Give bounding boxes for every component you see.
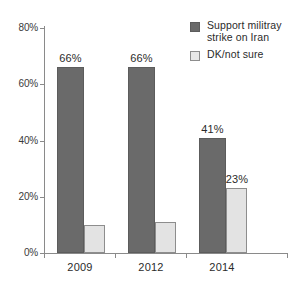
bar-label-2014-dk: 23% [219, 173, 255, 185]
legend-entry-support: Support militray strike on Iran [190, 20, 294, 43]
bar-label-2009-support: 66% [50, 52, 91, 64]
legend-entry-dk: DK/not sure [190, 49, 294, 61]
y-axis-line [44, 26, 45, 254]
y-tick-40 [40, 141, 45, 142]
bar-2009-support [57, 67, 84, 253]
y-tick-label-80: 80% [0, 23, 38, 33]
y-tick-60 [40, 84, 45, 85]
dark-swatch-icon [190, 22, 200, 32]
x-tick-sep-2 [186, 253, 187, 258]
y-tick-label-60: 60% [0, 79, 38, 89]
y-tick-label-20: 20% [0, 192, 38, 202]
x-tick-label-2014: 2014 [192, 261, 252, 273]
x-axis-line [44, 253, 288, 254]
chart-legend: Support militray strike on Iran DK/not s… [190, 20, 294, 67]
bar-label-2012-support: 66% [121, 52, 162, 64]
bar-2012-support [128, 67, 155, 253]
light-swatch-icon [190, 51, 200, 61]
bar-chart: 80% 60% 40% 20% 0% 2009 2012 2014 66% 66… [0, 0, 296, 286]
bar-2014-dk [226, 188, 247, 253]
bar-2012-dk [155, 222, 176, 253]
y-tick-label-40: 40% [0, 136, 38, 146]
x-tick-label-2009: 2009 [50, 261, 110, 273]
x-tick-sep-1 [115, 253, 116, 258]
y-tick-20 [40, 197, 45, 198]
x-tick-start [44, 253, 45, 258]
legend-label-support: Support militray strike on Iran [207, 20, 294, 43]
x-tick-end [287, 253, 288, 258]
bar-label-2014-support: 41% [192, 123, 233, 135]
legend-label-dk: DK/not sure [207, 49, 264, 61]
bar-2009-dk [84, 225, 105, 253]
y-tick-label-0: 0% [0, 248, 38, 258]
y-tick-80 [40, 28, 45, 29]
x-tick-label-2012: 2012 [121, 261, 181, 273]
bar-2014-support [199, 138, 226, 253]
